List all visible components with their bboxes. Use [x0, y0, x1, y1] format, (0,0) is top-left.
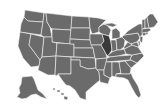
- state-shape[interactable]: [56, 43, 74, 57]
- state-shape[interactable]: [53, 88, 55, 90]
- state-shape[interactable]: [74, 48, 95, 58]
- state-shape[interactable]: [57, 90, 60, 92]
- state-shape[interactable]: [142, 19, 145, 29]
- state-kansas[interactable]: Kansas: [74, 48, 95, 58]
- state-shape[interactable]: [147, 14, 158, 28]
- state-new-mexico[interactable]: New Mexico: [55, 56, 71, 76]
- state-florida[interactable]: Florida: [116, 73, 141, 98]
- state-maine[interactable]: Maine: [147, 14, 158, 28]
- state-shape[interactable]: [55, 56, 71, 76]
- state-shape[interactable]: [116, 73, 141, 98]
- state-shape[interactable]: [61, 93, 64, 95]
- state-colorado[interactable]: Colorado: [56, 43, 74, 57]
- state-alaska[interactable]: Alaska: [17, 76, 47, 99]
- state-shape[interactable]: [71, 16, 90, 28]
- state-north-dakota[interactable]: North Dakota: [71, 16, 90, 28]
- state-hawaii[interactable]: Hawaii: [53, 88, 68, 100]
- state-vermont[interactable]: Vermont: [142, 19, 145, 29]
- state-mississippi[interactable]: Mississippi: [104, 62, 112, 78]
- state-shape[interactable]: [38, 56, 56, 75]
- state-shape[interactable]: [112, 28, 120, 39]
- state-shape[interactable]: [140, 36, 143, 43]
- us-map-svg: WashingtonOregonCaliforniaNevadaIdahoMon…: [0, 0, 164, 108]
- us-map: United States map WashingtonOregonCalifo…: [0, 0, 164, 108]
- state-new-jersey[interactable]: New Jersey: [140, 36, 143, 43]
- state-shape[interactable]: [52, 29, 71, 44]
- state-arizona[interactable]: Arizona: [38, 56, 56, 75]
- state-shape[interactable]: [64, 96, 68, 100]
- state-south-dakota[interactable]: South Dakota: [70, 28, 90, 40]
- state-shape[interactable]: [70, 28, 90, 40]
- state-wyoming[interactable]: Wyoming: [52, 29, 71, 44]
- state-shape[interactable]: [17, 76, 47, 99]
- state-shape[interactable]: [104, 62, 112, 78]
